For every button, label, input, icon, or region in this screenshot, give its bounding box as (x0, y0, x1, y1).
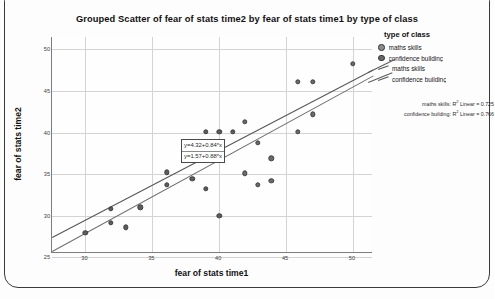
data-point (255, 182, 260, 187)
r2-confidence-value: Linear = 0.766 (460, 111, 494, 117)
legend-item-label: confidence buildinç (392, 76, 446, 83)
equation-confidence-building: y=1.57+0.88*x (184, 152, 222, 161)
data-point (203, 129, 208, 134)
gridline-horizontal (52, 133, 372, 134)
data-point (255, 140, 260, 145)
y-axis-tick-label: 25 (40, 254, 50, 260)
gridline-horizontal (52, 174, 372, 175)
gridline-horizontal (52, 257, 372, 258)
data-point (310, 79, 315, 84)
top-strip (5, 0, 489, 9)
data-point (295, 129, 300, 134)
r2-superscript: 2 (456, 99, 458, 104)
legend-item-label: maths skills (392, 65, 425, 72)
data-point (310, 112, 315, 117)
x-axis-tick-label: 30 (81, 255, 87, 261)
legend-item-label: confidence buildinç (389, 55, 443, 62)
data-point (138, 205, 143, 210)
x-axis-tick-label: 35 (148, 255, 154, 261)
data-point (108, 220, 113, 225)
y-axis-tick-label: 50 (40, 46, 50, 52)
r2-maths-value: Linear = 0.725 (460, 101, 494, 107)
equation-maths-skills: y=4.32+0.84*x (184, 141, 222, 150)
data-point (108, 206, 113, 211)
data-point (203, 186, 208, 191)
chart-title: Grouped Scatter of fear of stats time2 b… (0, 14, 494, 24)
r2-confidence-prefix: confidence building: (404, 111, 451, 117)
data-point (190, 176, 195, 181)
y-axis-tick-label: 45 (40, 88, 50, 94)
gridline-horizontal (52, 91, 372, 92)
y-axis-tick-label: 30 (40, 213, 50, 219)
gridline-horizontal (52, 216, 372, 217)
data-point (123, 225, 128, 230)
y-axis-tick-label: 40 (40, 130, 50, 136)
data-point (216, 129, 221, 134)
data-point (242, 171, 247, 176)
data-point (269, 178, 274, 183)
gridline-vertical (152, 37, 153, 252)
y-axis-tick-label: 35 (40, 171, 50, 177)
equation-callout: y=4.32+0.84*x y=1.57+0.88*x (181, 139, 225, 163)
legend-item-line-confidence-building[interactable]: confidence buildinç (372, 75, 494, 84)
data-point (230, 129, 235, 134)
x-axis-label: fear of stats time1 (51, 268, 372, 278)
r-squared-annotations: maths skills: R2 Linear = 0.725 confiden… (368, 98, 495, 119)
r-squared-maths-skills: maths skills: R2 Linear = 0.725 (368, 98, 494, 108)
r2-maths-prefix: maths skills: (422, 101, 451, 107)
legend-marker-icon (378, 55, 385, 62)
x-axis-tick-label: 45 (282, 255, 288, 261)
r2-superscript: 2 (456, 109, 458, 114)
gridline-vertical (286, 37, 287, 252)
legend: type of class maths skills confidence bu… (372, 30, 494, 85)
legend-title: type of class (384, 30, 494, 39)
data-point (269, 156, 274, 161)
data-point (350, 61, 355, 66)
data-point (295, 79, 300, 84)
gridline-horizontal (52, 49, 372, 50)
legend-item-label: maths skills (389, 44, 422, 51)
data-point (216, 213, 221, 218)
x-axis-tick-label: 50 (349, 255, 355, 261)
data-point (83, 230, 88, 235)
gridline-vertical (353, 37, 354, 252)
r-squared-confidence-building: confidence building: R2 Linear = 0.766 (368, 108, 494, 118)
regression-line-confidence-building (52, 75, 373, 251)
legend-item-marker-maths-skills[interactable]: maths skills (372, 43, 494, 52)
y-axis-label: fear of stats time2 (13, 44, 23, 244)
legend-marker-icon (378, 44, 385, 51)
data-point (242, 119, 247, 124)
x-axis-tick-label: 40 (215, 255, 221, 261)
